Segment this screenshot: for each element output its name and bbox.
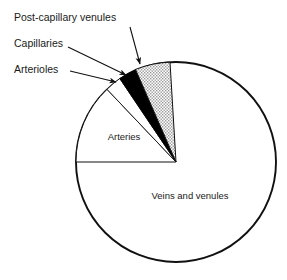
label-arterioles: Arterioles [14, 63, 58, 75]
leader-line-capillaries [68, 47, 126, 75]
leader-line-arterioles [70, 71, 116, 82]
label-post-capillary-venules: Post-capillary venules [14, 11, 116, 23]
leader-line-post-capillary-venules [130, 27, 140, 64]
label-arteries: Arteries [108, 131, 141, 142]
pie-chart-figure: Post-capillary venules Capillaries Arter… [0, 0, 287, 280]
label-capillaries: Capillaries [14, 37, 63, 49]
label-veins-and-venules: Veins and venules [151, 190, 228, 201]
pie-chart-svg: Post-capillary venules Capillaries Arter… [0, 0, 287, 280]
